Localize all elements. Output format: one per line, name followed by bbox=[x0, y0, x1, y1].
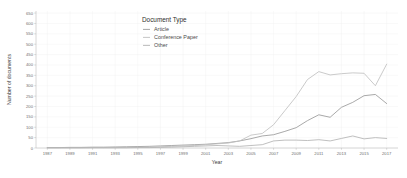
x-tick-label: 1989 bbox=[65, 151, 75, 156]
x-tick-label: 1995 bbox=[133, 151, 143, 156]
y-tick-label: 0 bbox=[31, 146, 34, 151]
x-tick-label: 2013 bbox=[337, 151, 347, 156]
y-tick-label: 650 bbox=[26, 11, 34, 16]
legend-label-conference-paper: Conference Paper bbox=[154, 34, 198, 40]
y-tick-label: 500 bbox=[26, 42, 34, 47]
y-axis-ticks: 050100150200250300350400450500550600650 bbox=[26, 11, 36, 151]
x-tick-label: 2009 bbox=[292, 151, 302, 156]
chart-container: 050100150200250300350400450500550600650 … bbox=[0, 0, 407, 178]
y-tick-label: 250 bbox=[26, 94, 34, 99]
x-tick-label: 2001 bbox=[201, 151, 211, 156]
x-tick-label: 2015 bbox=[359, 151, 369, 156]
y-tick-label: 400 bbox=[26, 62, 34, 67]
line-chart-svg: 050100150200250300350400450500550600650 … bbox=[0, 0, 407, 178]
y-tick-label: 350 bbox=[26, 73, 34, 78]
x-axis-ticks: 1987198919911993199519971999200120032005… bbox=[43, 148, 392, 156]
series-line-conference-paper bbox=[47, 64, 386, 148]
y-tick-label: 300 bbox=[26, 83, 34, 88]
y-tick-label: 150 bbox=[26, 114, 34, 119]
legend-title: Document Type bbox=[142, 16, 187, 24]
legend-entries: ArticleConference PaperOther bbox=[143, 26, 198, 48]
x-tick-label: 2007 bbox=[269, 151, 279, 156]
y-tick-label: 600 bbox=[26, 21, 34, 26]
y-tick-label: 50 bbox=[28, 135, 33, 140]
x-tick-label: 1999 bbox=[178, 151, 188, 156]
x-axis-title: Year bbox=[212, 159, 223, 165]
x-tick-label: 2011 bbox=[314, 151, 324, 156]
y-tick-label: 100 bbox=[26, 125, 34, 130]
legend-label-article: Article bbox=[154, 26, 169, 32]
y-tick-label: 550 bbox=[26, 31, 34, 36]
legend-label-other: Other bbox=[154, 42, 168, 48]
y-axis-title: Number of documents bbox=[6, 54, 12, 105]
data-series-lines bbox=[47, 64, 386, 148]
x-tick-label: 1997 bbox=[156, 151, 166, 156]
x-tick-label: 1991 bbox=[88, 151, 98, 156]
y-tick-label: 200 bbox=[26, 104, 34, 109]
x-tick-label: 2017 bbox=[382, 151, 392, 156]
x-tick-label: 1987 bbox=[43, 151, 53, 156]
x-tick-label: 2003 bbox=[224, 151, 234, 156]
gridlines bbox=[36, 11, 398, 148]
y-tick-label: 450 bbox=[26, 52, 34, 57]
x-tick-label: 2005 bbox=[246, 151, 256, 156]
legend: Document Type ArticleConference PaperOth… bbox=[142, 16, 198, 48]
x-tick-label: 1993 bbox=[111, 151, 121, 156]
